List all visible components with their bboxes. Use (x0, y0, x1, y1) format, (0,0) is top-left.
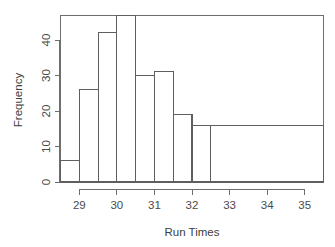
histogram-bar (98, 33, 117, 182)
x-axis-title: Run Times (165, 226, 220, 238)
y-tick-label: 30 (40, 69, 52, 82)
histogram-bar (61, 161, 80, 182)
histogram-bar (173, 115, 192, 182)
y-axis-title: Frequency (12, 73, 24, 128)
histogram-bar (79, 90, 98, 182)
x-axis (79, 190, 304, 195)
histogram-plot-area: 010203040 29303132333435 Frequency Run T… (0, 0, 335, 247)
histogram-bar (154, 72, 173, 182)
x-tick-label: 29 (73, 199, 86, 211)
y-tick-label: 10 (40, 140, 52, 153)
x-tick-label: 32 (186, 199, 199, 211)
histogram-bar (136, 76, 155, 183)
histogram-bar (192, 125, 211, 182)
x-tick-label: 33 (223, 199, 236, 211)
x-tick-label: 31 (148, 199, 161, 211)
x-tick-label: 35 (298, 199, 311, 211)
bar-series (61, 15, 324, 182)
histogram-figure: 010203040 29303132333435 Frequency Run T… (0, 0, 335, 247)
y-tick-label: 20 (40, 105, 52, 118)
y-tick-labels: 010203040 (40, 34, 52, 186)
histogram-bar (211, 125, 324, 182)
y-tick-label: 0 (40, 179, 52, 185)
x-tick-label: 30 (110, 199, 123, 211)
histogram-bar (117, 15, 136, 182)
x-tick-label: 34 (261, 199, 274, 211)
x-tick-labels: 29303132333435 (73, 199, 311, 211)
y-axis (55, 40, 60, 182)
y-tick-label: 40 (40, 34, 52, 47)
